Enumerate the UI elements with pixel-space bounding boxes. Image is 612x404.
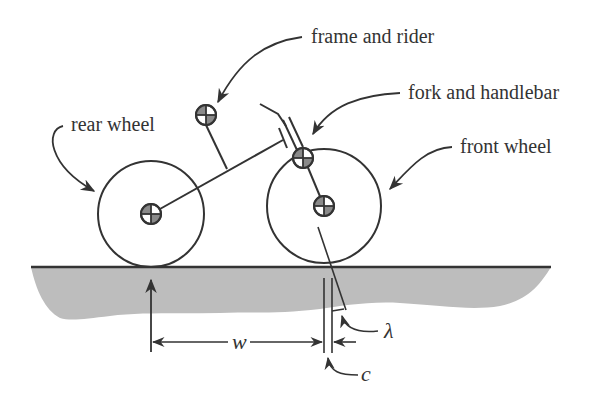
head-tube-cap <box>279 128 287 148</box>
label-frame-and-rider: frame and rider <box>311 25 435 47</box>
ground <box>31 267 551 319</box>
center-of-mass-icon <box>196 105 216 125</box>
arrow-fork-and-handlebar <box>313 93 400 134</box>
arrow-front-wheel <box>390 147 452 189</box>
steer-tube-right <box>289 117 303 147</box>
center-of-mass-icon <box>293 148 313 168</box>
center-of-mass-icon <box>314 196 334 216</box>
ground-fill <box>31 267 551 319</box>
handlebar <box>260 104 286 126</box>
frame-tube <box>151 140 283 214</box>
steer-angle-leader <box>342 316 378 332</box>
label-front-wheel: front wheel <box>460 135 552 157</box>
bicycle-diagram: frame and rider fork and handlebar front… <box>0 0 612 404</box>
trail-symbol: c <box>361 361 371 386</box>
center-of-mass-icon <box>141 204 161 224</box>
steer-angle-arc <box>332 309 344 311</box>
steer-angle-symbol: λ <box>383 318 394 343</box>
arrow-rear-wheel <box>53 126 94 191</box>
arrow-frame-and-rider <box>218 37 302 102</box>
label-fork-and-handlebar: fork and handlebar <box>408 81 559 103</box>
wheelbase-symbol: w <box>232 329 247 354</box>
label-rear-wheel: rear wheel <box>71 113 155 135</box>
frame-com-post <box>206 125 227 169</box>
trail-leader <box>328 358 358 375</box>
